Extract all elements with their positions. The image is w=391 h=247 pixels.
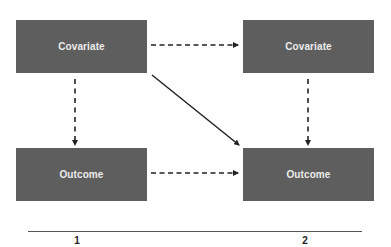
node-label: Outcome [59, 169, 103, 180]
node-label: Outcome [286, 169, 330, 180]
node-covariate-wave1: Covariate [16, 20, 147, 73]
wave-label-1: 1 [67, 235, 87, 246]
time-axis-line [28, 231, 362, 232]
node-label: Covariate [58, 41, 104, 52]
node-covariate-wave2: Covariate [243, 20, 374, 73]
edge-covariate1-to-outcome2 [152, 75, 239, 145]
node-label: Covariate [285, 41, 331, 52]
wave-label-2: 2 [295, 235, 315, 246]
node-outcome-wave1: Outcome [16, 148, 147, 201]
node-outcome-wave2: Outcome [243, 148, 374, 201]
